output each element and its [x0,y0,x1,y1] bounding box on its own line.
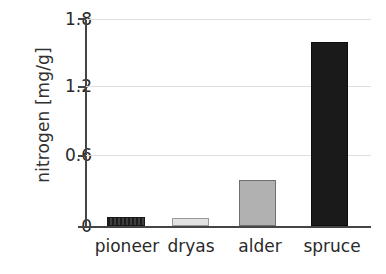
bar-pioneer[interactable] [107,217,145,226]
bar-alder[interactable] [239,180,276,226]
y-axis-title: nitrogen [mg/g] [30,2,56,228]
x-tick-label-dryas: dryas [152,238,230,255]
gridline-1.8 [86,19,371,20]
bar-chart: nitrogen [mg/g] 1.8 1.2 0.6 0 pioneer dr… [0,0,386,274]
x-tick-label-alder: alder [222,238,298,255]
bar-spruce[interactable] [311,42,348,226]
bar-dryas[interactable] [172,218,209,226]
x-tick-label-spruce: spruce [292,238,372,255]
x-axis-line [86,226,371,228]
plot-area [86,19,371,226]
